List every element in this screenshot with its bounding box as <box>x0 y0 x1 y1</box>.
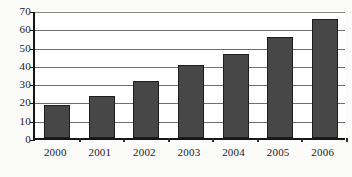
bar-2004 <box>223 54 249 138</box>
x-axis-label-2001: 2001 <box>88 146 111 159</box>
y-axis-tick-0 <box>30 140 35 141</box>
x-axis-label-2005: 2005 <box>267 146 290 159</box>
x-axis-tick-2006 <box>346 138 348 142</box>
y-axis-label-40: 40 <box>5 61 31 72</box>
x-axis-tick-2004 <box>257 138 259 142</box>
y-axis-tick-60 <box>30 30 35 31</box>
y-axis-label-10: 10 <box>5 116 31 127</box>
x-axis-label-2003: 2003 <box>178 146 201 159</box>
bar-2000 <box>44 105 70 138</box>
x-axis-tick-2003 <box>212 138 214 142</box>
gridline-60 <box>35 30 345 31</box>
y-axis-tick-40 <box>30 67 35 68</box>
y-axis-tick-70 <box>30 12 35 13</box>
x-axis-labels: 2000200120022003200420052006 <box>33 146 345 168</box>
x-axis-label-2004: 2004 <box>222 146 245 159</box>
y-axis-labels: 010203040506070 <box>0 0 31 177</box>
bar-2003 <box>178 65 204 138</box>
y-axis-label-70: 70 <box>5 6 31 17</box>
x-axis-label-2006: 2006 <box>311 146 334 159</box>
y-axis-label-30: 30 <box>5 79 31 90</box>
x-axis-label-2000: 2000 <box>44 146 67 159</box>
bar-2001 <box>89 96 115 138</box>
y-axis-tick-50 <box>30 49 35 50</box>
bar-2002 <box>133 81 159 138</box>
chart-page: 010203040506070 200020012002200320042005… <box>0 0 352 177</box>
y-axis-label-0: 0 <box>5 134 31 145</box>
x-axis-tick-2005 <box>301 138 303 142</box>
y-axis-label-60: 60 <box>5 24 31 35</box>
y-axis-label-20: 20 <box>5 97 31 108</box>
bar-2005 <box>267 37 293 138</box>
bar-2006 <box>312 19 338 138</box>
gridline-70 <box>35 12 345 13</box>
y-axis-label-50: 50 <box>5 43 31 54</box>
gridline-50 <box>35 49 345 50</box>
y-axis-tick-10 <box>30 122 35 123</box>
x-axis-tick-2001 <box>123 138 125 142</box>
x-axis-label-2002: 2002 <box>133 146 156 159</box>
y-axis-tick-30 <box>30 85 35 86</box>
plot-area <box>33 12 345 140</box>
x-axis-tick-2002 <box>168 138 170 142</box>
bar-chart: 010203040506070 200020012002200320042005… <box>0 0 352 177</box>
x-axis-tick-2000 <box>79 138 81 142</box>
y-axis-tick-20 <box>30 103 35 104</box>
